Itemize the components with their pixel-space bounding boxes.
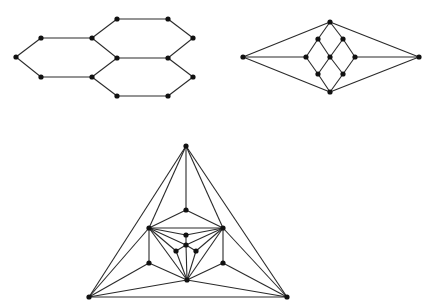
node-ml [303,54,308,59]
edge-ml-ll [306,57,318,74]
triangle-graph [86,143,289,299]
node-c [38,74,43,79]
edge-apex-br [186,146,287,297]
edge-e-i [92,58,117,77]
node-h [190,35,195,40]
edge-t-R [186,210,223,228]
edge-m-k [168,77,193,96]
node-R [220,225,225,230]
node-b [38,35,43,40]
edge-c4-B [187,251,196,280]
node-t [183,207,188,212]
edge-ul-c [318,39,330,57]
node-LR [220,260,225,265]
node-ur [340,36,345,41]
edge-apex-L [149,146,186,228]
edge-e-l [92,77,117,96]
node-lr [340,71,345,76]
edge-c2-B [186,245,187,280]
edge-g-h [168,19,193,38]
node-B [184,277,189,282]
edge-L-B [149,228,187,280]
node-i [114,55,119,60]
edge-d-i [92,38,117,58]
node-a [13,54,18,59]
node-m [165,93,170,98]
edge-k-j [168,58,193,77]
edge-bl-L [89,228,149,297]
edge-br-R [223,228,287,297]
node-ll [315,71,320,76]
edge-c-lr [330,57,343,74]
edge-ul-ml [306,39,318,57]
edge-R-c1 [186,228,223,235]
diamond-graph [240,19,421,94]
node-g [165,16,170,21]
edge-ur-mr [343,39,355,57]
edge-a-b [16,38,41,57]
node-bl [86,294,91,299]
node-f [114,16,119,21]
node-c [327,54,332,59]
node-c1 [183,232,188,237]
node-br [284,294,289,299]
edge-d-f [92,19,117,38]
edge-a-c [16,57,41,77]
node-fl [240,54,245,59]
node-c2 [183,242,188,247]
node-l [114,93,119,98]
node-apex [183,143,188,148]
node-mr [352,54,357,59]
node-LL [146,260,151,265]
hexagon-graph [13,16,195,98]
edge-mr-lr [343,57,355,74]
node-d [89,35,94,40]
node-c3 [173,248,178,253]
node-bot [327,89,332,94]
node-k [190,74,195,79]
node-L [146,225,151,230]
node-ul [315,36,320,41]
graph-diagram-canvas [0,0,438,303]
edge-L-c3 [149,228,176,251]
node-e [89,74,94,79]
node-fr [416,54,421,59]
edge-h-j [168,38,193,58]
edge-ur-c [330,39,343,57]
edge-t-L [149,210,186,228]
edge-apex-bl [89,146,186,297]
edge-apex-R [186,146,223,228]
node-top [327,19,332,24]
node-j [165,55,170,60]
edge-L-c1 [149,228,186,235]
node-c4 [193,248,198,253]
edge-c-ll [318,57,330,74]
